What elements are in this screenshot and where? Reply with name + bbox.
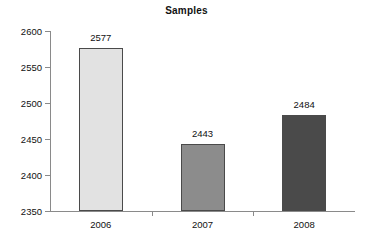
bar bbox=[181, 144, 225, 211]
y-axis-tick bbox=[45, 31, 50, 32]
x-axis-label: 2007 bbox=[168, 219, 238, 230]
y-axis-label: 2400 bbox=[2, 170, 42, 181]
y-axis-tick bbox=[45, 67, 50, 68]
bar-value-label: 2443 bbox=[168, 128, 238, 139]
bar bbox=[282, 115, 326, 211]
bar bbox=[79, 48, 123, 211]
y-axis-tick bbox=[45, 103, 50, 104]
y-axis-label: 2500 bbox=[2, 98, 42, 109]
y-axis-line bbox=[50, 31, 51, 212]
y-axis-label: 2600 bbox=[2, 26, 42, 37]
x-axis-line bbox=[50, 211, 355, 212]
y-axis-tick bbox=[45, 175, 50, 176]
y-axis-tick bbox=[45, 211, 50, 212]
bar-value-label: 2484 bbox=[269, 99, 339, 110]
y-axis-label: 2350 bbox=[2, 206, 42, 217]
bar-chart: Samples 235024002450250025502600 2006200… bbox=[0, 0, 373, 239]
x-axis-label: 2006 bbox=[66, 219, 136, 230]
y-axis-label: 2550 bbox=[2, 62, 42, 73]
chart-title: Samples bbox=[0, 5, 373, 16]
x-axis-tick bbox=[253, 211, 254, 216]
bar-value-label: 2577 bbox=[66, 32, 136, 43]
y-axis-label: 2450 bbox=[2, 134, 42, 145]
x-axis-tick bbox=[152, 211, 153, 216]
y-axis-tick bbox=[45, 139, 50, 140]
x-axis-label: 2008 bbox=[269, 219, 339, 230]
